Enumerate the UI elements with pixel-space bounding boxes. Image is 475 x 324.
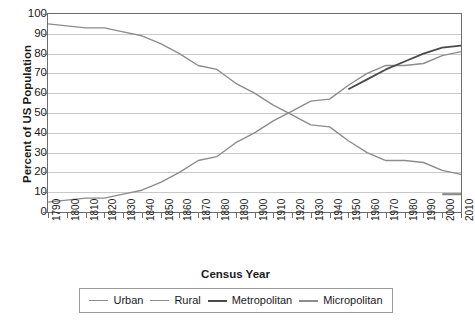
x-axis-tick [255,213,256,218]
y-axis-tick-label: 80 [13,48,47,60]
legend-label: Micropolitan [323,295,382,306]
x-axis-tick-label: 1920 [296,199,306,221]
x-axis-tick-label: 1890 [240,199,250,221]
legend-swatch-urban [89,300,108,301]
x-axis-tick [386,213,387,218]
plot-area [47,13,462,213]
series-layer [48,14,461,212]
series-line-rural [48,24,461,174]
x-axis-tick [217,213,218,218]
y-axis-tick-label: 90 [13,28,47,40]
x-axis-tick [330,213,331,218]
x-axis-tick [104,213,105,218]
y-axis-tick-label: 10 [13,186,47,198]
x-axis-tick-label: 1910 [277,199,287,221]
x-axis-tick-label: 2010 [465,199,475,221]
x-axis-tick [198,213,199,218]
x-axis-tick-label: 1860 [183,199,193,221]
y-axis-tick-label: 40 [13,127,47,139]
x-axis-tick-label: 1960 [371,199,381,221]
x-axis-tick-label: 1940 [334,199,344,221]
x-axis-tick-label: 1990 [427,199,437,221]
x-axis-tick-label: 1830 [127,199,137,221]
x-axis-tick-label: 1900 [259,199,269,221]
x-axis-tick [142,213,143,218]
x-axis-tick [48,213,49,218]
y-axis-tick-label: 100 [13,8,47,20]
x-axis-tick [123,213,124,218]
x-axis-tick [461,213,462,218]
x-axis-tick-label: 1970 [390,199,400,221]
x-axis-tick [292,213,293,218]
x-axis-tick [423,213,424,218]
series-line-urban [48,52,461,202]
legend-item-metropolitan[interactable]: Metropolitan [208,295,293,306]
x-axis-tick [86,213,87,218]
chart-legend: UrbanRuralMetropolitanMicropolitan [79,288,393,313]
x-axis-tick [442,213,443,218]
y-axis-tick-label: 30 [13,147,47,159]
x-axis-tick-label: 1870 [202,199,212,221]
legend-swatch-metropolitan [208,300,227,302]
x-axis-tick [405,213,406,218]
x-axis-tick [161,213,162,218]
x-axis-tick-label: 1930 [315,199,325,221]
x-axis-tick-label: 2000 [446,199,456,221]
y-axis-tick-label: 50 [13,107,47,119]
x-axis-tick-label: 1820 [108,199,118,221]
series-line-metropolitan [348,46,461,90]
y-axis-tick-label: 70 [13,67,47,79]
x-axis-tick-label: 1840 [146,199,156,221]
x-axis-tick [273,213,274,218]
x-axis-tick-label: 1810 [90,199,100,221]
x-axis-tick [179,213,180,218]
x-axis-tick-label: 1880 [221,199,231,221]
y-axis: 0102030405060708090100 [0,0,47,226]
legend-item-urban[interactable]: Urban [89,295,143,306]
x-axis-tick-label: 1790 [52,199,62,221]
x-axis-tick [236,213,237,218]
x-axis-tick [348,213,349,218]
x-axis-tick [367,213,368,218]
legend-item-rural[interactable]: Rural [150,295,200,306]
legend-swatch-micropolitan [299,300,318,302]
x-axis-tick [67,213,68,218]
x-axis-tick-label: 1800 [71,199,81,221]
x-axis-tick-label: 1850 [165,199,175,221]
legend-item-micropolitan[interactable]: Micropolitan [299,295,382,306]
x-axis-tick-label: 1980 [409,199,419,221]
legend-label: Urban [113,295,143,306]
y-axis-tick-label: 0 [13,206,47,218]
legend-swatch-rural [150,300,169,301]
y-axis-tick-label: 20 [13,166,47,178]
x-axis-title: Census Year [0,268,471,280]
legend-label: Rural [174,295,200,306]
x-axis-tick-label: 1950 [352,199,362,221]
y-axis-tick-label: 60 [13,87,47,99]
x-axis-tick [311,213,312,218]
legend-label: Metropolitan [232,295,293,306]
